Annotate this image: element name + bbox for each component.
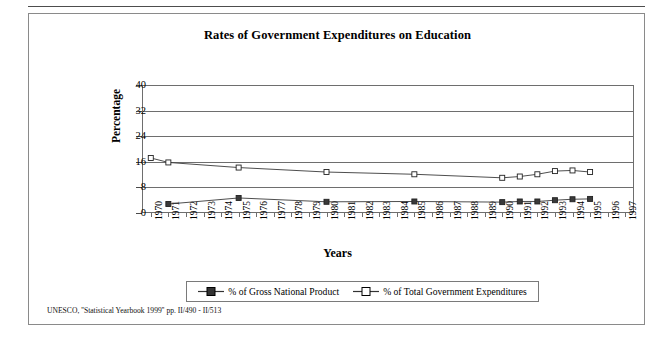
- x-tick-mark: [590, 213, 591, 217]
- data-point-marker: [588, 196, 593, 201]
- y-tick-label: 24: [106, 131, 146, 142]
- top-horizontal-rule: [28, 6, 645, 7]
- figure-container: Rates of Government Expenditures on Educ…: [28, 13, 645, 325]
- x-tick-mark: [537, 213, 538, 217]
- data-point-marker: [552, 169, 557, 174]
- data-point-marker: [517, 199, 522, 204]
- data-point-marker: [236, 195, 241, 200]
- data-point-marker: [570, 197, 575, 202]
- data-point-marker: [412, 199, 417, 204]
- filled-square-marker-icon: [198, 286, 224, 297]
- chart-title: Rates of Government Expenditures on Educ…: [29, 28, 646, 43]
- x-tick-mark: [256, 213, 257, 217]
- data-point-marker: [588, 170, 593, 175]
- x-axis-title: Years: [29, 246, 646, 261]
- x-tick-mark: [485, 213, 486, 217]
- data-point-marker: [552, 198, 557, 203]
- x-tick-mark: [625, 213, 626, 217]
- x-tick-mark: [344, 213, 345, 217]
- data-point-marker: [324, 199, 329, 204]
- x-tick-mark: [467, 213, 468, 217]
- series-line: [168, 198, 590, 204]
- x-tick-mark: [414, 213, 415, 217]
- y-tick-label: 0: [106, 208, 146, 219]
- data-point-marker: [236, 165, 241, 170]
- x-tick-mark: [151, 213, 152, 217]
- x-tick-mark: [168, 213, 169, 217]
- x-tick-mark: [221, 213, 222, 217]
- legend-item-total-gov-exp[interactable]: % of Total Government Expenditures: [353, 286, 527, 297]
- legend-item-gnp[interactable]: % of Gross National Product: [198, 286, 339, 297]
- x-tick-mark: [327, 213, 328, 217]
- x-tick-mark: [379, 213, 380, 217]
- y-tick-label: 16: [106, 157, 146, 168]
- plot-area: Percentage 0816243240 197019711972197319…: [114, 72, 636, 217]
- y-tick-label: 32: [106, 106, 146, 117]
- x-tick-mark: [291, 213, 292, 217]
- x-tick-mark: [397, 213, 398, 217]
- source-note: UNESCO, ''Statistical Yearbook 1999'' pp…: [47, 306, 221, 315]
- x-tick-mark: [520, 213, 521, 217]
- data-point-marker: [412, 172, 417, 177]
- x-tick-mark: [204, 213, 205, 217]
- x-tick-mark: [239, 213, 240, 217]
- data-point-marker: [148, 155, 153, 160]
- x-tick-mark: [573, 213, 574, 217]
- chart-legend: % of Gross National Product % of Total G…: [186, 281, 539, 302]
- series-line: [151, 158, 590, 178]
- data-point-marker: [535, 172, 540, 177]
- x-tick-mark: [555, 213, 556, 217]
- figure-page: Rates of Government Expenditures on Educ…: [0, 0, 671, 347]
- data-point-marker: [517, 174, 522, 179]
- data-point-marker: [570, 168, 575, 173]
- x-tick-mark: [432, 213, 433, 217]
- x-tick-mark: [362, 213, 363, 217]
- x-tick-mark: [186, 213, 187, 217]
- data-point-marker: [535, 199, 540, 204]
- y-tick-label: 8: [106, 182, 146, 193]
- y-tick-label: 40: [106, 80, 146, 91]
- x-tick-mark: [309, 213, 310, 217]
- x-tick-mark: [450, 213, 451, 217]
- legend-label-total-gov-exp: % of Total Government Expenditures: [383, 286, 527, 297]
- data-point-marker: [166, 160, 171, 165]
- open-square-marker-icon: [353, 286, 379, 297]
- x-tick-mark: [608, 213, 609, 217]
- data-point-marker: [166, 202, 171, 207]
- x-tick-mark: [274, 213, 275, 217]
- data-point-marker: [500, 200, 505, 205]
- data-series-layer: [142, 85, 634, 213]
- x-tick-mark: [502, 213, 503, 217]
- legend-label-gnp: % of Gross National Product: [228, 286, 339, 297]
- data-point-marker: [500, 175, 505, 180]
- data-point-marker: [324, 170, 329, 175]
